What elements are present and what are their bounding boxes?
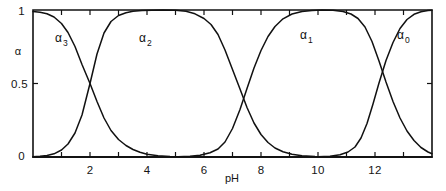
series-label-alpha-1-sub: 1 — [308, 35, 313, 45]
series-label-alpha-3: α 3 — [55, 31, 68, 48]
series-label-alpha-1: α 1 — [300, 28, 313, 45]
series-label-alpha-0-sub: 0 — [405, 35, 410, 45]
series-label-alpha-0-main: α — [397, 28, 404, 42]
y-tick-label-bottom: 0 — [18, 150, 25, 162]
x-axis-title: pH — [225, 172, 239, 184]
y-tick-label-mid: 0.5 — [11, 78, 28, 90]
x-tick-label-10: 10 — [311, 164, 324, 176]
series-label-alpha-3-main: α — [55, 31, 62, 45]
curve-alpha-1 — [33, 10, 432, 157]
y-tick-label-top: 1 — [18, 5, 25, 17]
curve-alpha-0 — [33, 10, 432, 157]
series-label-alpha-2: α 2 — [139, 31, 152, 48]
curve-alpha-3 — [33, 12, 432, 158]
series-label-alpha-2-sub: 2 — [147, 38, 152, 48]
curve-alpha-2 — [33, 10, 432, 157]
x-tick-label-8: 8 — [258, 164, 265, 176]
series-label-alpha-0: α 0 — [397, 28, 410, 45]
x-tick-label-2: 2 — [87, 164, 94, 176]
chart-screenshot: 1 0.5 0 α 2 4 6 8 10 12 pH α 3 α 2 α 1 α… — [0, 0, 446, 191]
x-tick-label-12: 12 — [368, 164, 381, 176]
series-label-alpha-1-main: α — [300, 28, 307, 42]
series-label-alpha-2-main: α — [139, 31, 146, 45]
x-tick-label-4: 4 — [144, 164, 151, 176]
series-label-alpha-3-sub: 3 — [63, 38, 68, 48]
y-axis-title: α — [15, 45, 22, 57]
x-tick-label-6: 6 — [201, 164, 208, 176]
plot-frame — [33, 10, 432, 157]
speciation-chart: 1 0.5 0 α 2 4 6 8 10 12 pH α 3 α 2 α 1 α… — [0, 0, 446, 191]
